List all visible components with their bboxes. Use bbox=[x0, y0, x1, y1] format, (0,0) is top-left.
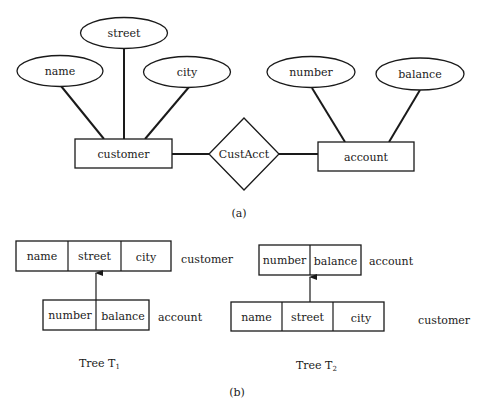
attribute-street: street bbox=[81, 18, 168, 49]
field-name: name bbox=[241, 311, 272, 324]
tree-t2-customer-label: customer bbox=[418, 314, 471, 327]
field-street: street bbox=[78, 250, 111, 263]
tree-t1-customer-label: customer bbox=[181, 253, 234, 266]
entity-account-label: account bbox=[344, 151, 389, 164]
field-number: number bbox=[48, 309, 92, 322]
tree-t1-account-record: number balance bbox=[43, 300, 149, 330]
tree-t1: name street city customer number balance… bbox=[16, 241, 234, 371]
edge-name-customer bbox=[61, 86, 104, 139]
entity-customer-label: customer bbox=[97, 148, 150, 161]
caption-a: (a) bbox=[231, 207, 246, 220]
attribute-name-label: name bbox=[45, 65, 76, 78]
entity-customer: customer bbox=[75, 139, 172, 168]
field-number: number bbox=[263, 254, 307, 267]
field-street: street bbox=[291, 311, 324, 324]
attribute-city-label: city bbox=[177, 66, 198, 79]
tree-t2-customer-record: name street city bbox=[231, 302, 384, 331]
tree-t2-account-record: number balance bbox=[259, 245, 361, 275]
relationship-custacct: CustAcct bbox=[209, 118, 279, 190]
field-balance: balance bbox=[101, 310, 144, 323]
field-city: city bbox=[136, 251, 157, 264]
field-name: name bbox=[27, 250, 58, 263]
er-and-tree-diagram: name street city number balance customer… bbox=[0, 0, 477, 417]
attribute-city: city bbox=[144, 57, 231, 88]
tree-t2-caption: Tree T2 bbox=[296, 359, 337, 373]
tree-t1-caption: Tree T1 bbox=[79, 357, 120, 371]
tree-t1-customer-record: name street city bbox=[16, 241, 171, 271]
edge-balance-account bbox=[389, 90, 420, 142]
tree-t1-account-label: account bbox=[158, 311, 203, 324]
field-balance: balance bbox=[314, 255, 357, 268]
caption-b: (b) bbox=[229, 386, 245, 399]
edge-number-account bbox=[312, 88, 345, 142]
attribute-street-label: street bbox=[108, 27, 141, 40]
entity-account: account bbox=[318, 142, 414, 171]
attribute-number: number bbox=[267, 57, 355, 88]
attribute-balance-label: balance bbox=[398, 68, 441, 81]
field-city: city bbox=[351, 312, 372, 325]
relationship-custacct-label: CustAcct bbox=[219, 148, 270, 161]
edge-city-customer bbox=[145, 87, 189, 139]
er-diagram: name street city number balance customer… bbox=[17, 18, 464, 221]
attribute-balance: balance bbox=[376, 58, 464, 90]
attribute-number-label: number bbox=[289, 66, 333, 79]
attribute-name: name bbox=[17, 56, 103, 87]
tree-t2-account-label: account bbox=[369, 255, 414, 268]
tree-t2: number balance account name street city … bbox=[231, 245, 471, 373]
